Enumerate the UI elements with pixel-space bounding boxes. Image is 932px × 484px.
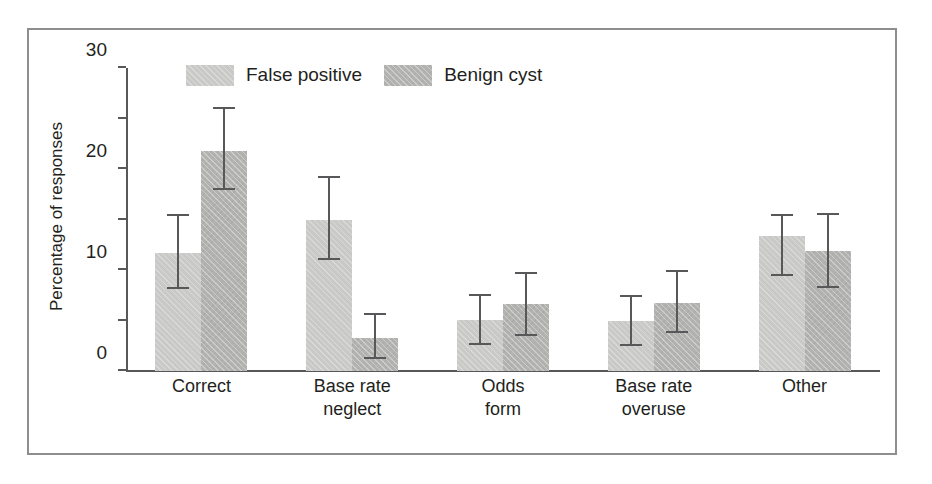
error-bar-cap-bottom: [167, 287, 189, 289]
error-bar-cap-bottom: [817, 286, 839, 288]
error-bar-cap-top: [469, 294, 491, 296]
x-tick-label-line: Base rate: [615, 376, 692, 396]
legend-label: False positive: [246, 64, 362, 86]
error-bar-cap-top: [620, 295, 642, 297]
y-tick-mark: 10: [118, 319, 126, 321]
error-bar: [827, 213, 829, 288]
y-tick-mark: 20: [118, 268, 126, 270]
legend-label: Benign cyst: [444, 64, 542, 86]
y-tick-mark: 40: [118, 167, 126, 169]
error-bar: [177, 214, 179, 289]
y-tick-label: 10: [86, 242, 107, 261]
error-bar-cap-bottom: [469, 343, 491, 345]
legend-entry-1: Benign cyst: [384, 64, 542, 86]
legend-swatch: [186, 65, 234, 86]
error-bar-cap-top: [771, 214, 793, 216]
y-tick-label: 0: [96, 343, 107, 362]
y-tick-mark: 30: [118, 218, 126, 220]
bar-group: [306, 62, 398, 371]
legend-entry-0: False positive: [186, 64, 362, 86]
error-bar-cap-bottom: [318, 258, 340, 260]
plot-area: 0102030405060 CorrectBase rateneglectOdd…: [126, 62, 880, 371]
y-axis-title: Percentage of responses: [46, 62, 68, 371]
x-tick-label-line: Correct: [172, 376, 231, 396]
legend-swatch: [384, 65, 432, 86]
figure-root: Percentage of responses 0102030405060 Co…: [0, 0, 932, 484]
x-tick-label-line: Other: [782, 376, 827, 396]
x-tick-label-line: Base rate: [314, 376, 391, 396]
y-tick-label: 20: [86, 141, 107, 160]
error-bar-cap-top: [515, 272, 537, 274]
bar-group: [608, 62, 700, 371]
y-tick-mark: 0: [118, 369, 126, 371]
error-bar-cap-top: [817, 213, 839, 215]
error-bar-cap-top: [213, 107, 235, 109]
x-tick-label: Other: [710, 375, 900, 398]
chart-legend: False positiveBenign cyst: [186, 64, 542, 86]
error-bar: [630, 295, 632, 346]
error-bar-cap-top: [364, 313, 386, 315]
error-bar-cap-top: [318, 176, 340, 178]
bar-group: [155, 62, 247, 371]
error-bar-cap-bottom: [213, 188, 235, 190]
error-bar: [374, 313, 376, 359]
y-tick-mark: 60: [118, 66, 126, 68]
error-bar: [328, 176, 330, 260]
x-tick-label-line: neglect: [323, 399, 381, 419]
error-bar-cap-bottom: [364, 357, 386, 359]
error-bar: [223, 107, 225, 190]
error-bar: [781, 214, 783, 276]
error-bar-cap-bottom: [515, 334, 537, 336]
error-bar: [676, 270, 678, 333]
y-tick-label: 30: [86, 40, 107, 59]
x-tick-label-line: Odds: [481, 376, 524, 396]
error-bar-cap-top: [666, 270, 688, 272]
error-bar-cap-bottom: [666, 331, 688, 333]
error-bar-cap-top: [167, 214, 189, 216]
error-bar: [479, 294, 481, 345]
bar-group: [759, 62, 851, 371]
error-bar: [525, 272, 527, 336]
error-bar-cap-bottom: [771, 274, 793, 276]
x-tick-label-line: overuse: [622, 399, 686, 419]
error-bar-cap-bottom: [620, 344, 642, 346]
bar-group: [457, 62, 549, 371]
y-tick-mark: 50: [118, 117, 126, 119]
x-tick-label-line: form: [485, 399, 521, 419]
